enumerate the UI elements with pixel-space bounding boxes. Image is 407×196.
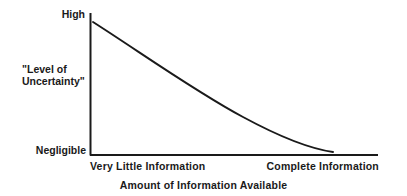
x-axis-title: Amount of Information Available [0, 179, 407, 191]
y-axis-title-line-1: "Level of [22, 63, 85, 75]
x-axis-tick-complete-information: Complete Information [266, 160, 379, 172]
uncertainty-information-chart: High Negligible "Level of Uncertainty" V… [0, 0, 407, 196]
uncertainty-curve [93, 22, 333, 152]
y-axis-tick-negligible: Negligible [36, 144, 86, 156]
y-axis-tick-high: High [62, 8, 85, 20]
y-axis-title: "Level of Uncertainty" [22, 63, 85, 88]
y-axis-title-line-2: Uncertainty" [22, 75, 85, 87]
x-axis-tick-very-little-information: Very Little Information [90, 160, 205, 172]
